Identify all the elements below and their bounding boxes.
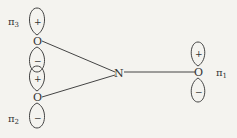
nitrate-orbital-diagram: O O O N + − + − + − π3 π2 π1 [0,0,237,138]
bond-n-o-bottom [42,75,115,97]
sign-right-lower: − [195,87,203,97]
sign-right-upper: + [195,49,203,59]
sign-top-upper: + [34,17,42,27]
sign-bottom-upper: + [34,74,42,84]
oxygen-bottom: O [33,91,42,104]
nitrogen-center: N [114,67,124,80]
label-pi1: π1 [216,67,227,80]
oxygen-top: O [33,35,42,48]
sign-bottom-lower: − [34,113,42,123]
sign-top-lower: − [34,56,42,66]
label-pi3: π3 [8,16,19,29]
label-pi2: π2 [8,113,19,126]
oxygen-right: O [194,66,203,79]
bond-n-o-top [42,41,115,72]
